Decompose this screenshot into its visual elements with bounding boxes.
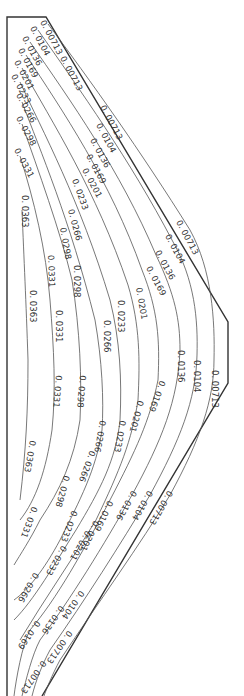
contour-label: 0. 0201: [128, 399, 146, 433]
contour-label: 0. 0169: [16, 619, 43, 651]
contour-label: 0. 0266: [16, 571, 41, 604]
contour-label: 0. 0363: [28, 290, 38, 322]
contour-label: 0. 0266: [92, 420, 107, 454]
contour-label: 0. 0331: [54, 310, 64, 342]
contour-label: 0. 0266: [102, 320, 112, 352]
contour-label: 0. 0298: [54, 474, 72, 508]
contour-plot: 0. 007130. 01040. 01360. 01690. 02010. 0…: [0, 0, 244, 696]
contour-label: 0. 00713: [210, 370, 220, 408]
contour-label: 0. 0136: [176, 350, 186, 382]
contour-label: 0. 0233: [116, 300, 126, 332]
contour-label: 0. 0266: [77, 449, 97, 483]
contour-label: 0. 0104: [192, 360, 202, 392]
contour-label: 0. 0298: [75, 375, 88, 408]
contour-label: 0. 0363: [22, 440, 37, 474]
contour-0.0298: [14, 124, 81, 565]
contour-label: 0. 0331: [46, 255, 57, 288]
contour-labels: 0. 007130. 01040. 01360. 01690. 02010. 0…: [9, 18, 220, 695]
contour-label: 0. 0233: [59, 509, 79, 543]
contour-label: 0. 0169: [147, 379, 167, 413]
contour-label: 0. 0363: [20, 195, 30, 227]
contour-0.00713: [44, 24, 214, 696]
contour-label: 0. 0201: [134, 287, 149, 321]
contour-label: 0. 0233: [112, 420, 127, 454]
contour-label: 0. 0298: [58, 227, 73, 261]
domain-boundary: [7, 17, 228, 696]
contour-label: 0. 0298: [72, 265, 82, 297]
contour-label: 0. 0331: [19, 505, 39, 539]
contour-label: 0. 0331: [51, 375, 64, 408]
contour-label: 0. 0331: [12, 146, 36, 179]
